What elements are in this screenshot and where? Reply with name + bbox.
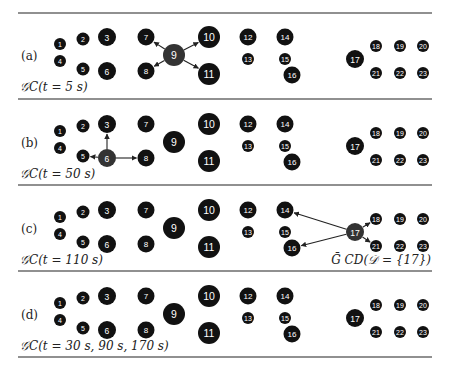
node-4: 4 — [54, 55, 66, 67]
node-label: 17 — [350, 314, 360, 324]
panel-label: (d) — [21, 308, 38, 322]
node-label: 3 — [105, 292, 110, 302]
node-19: 19 — [394, 40, 406, 52]
node-9: 9 — [163, 44, 185, 66]
node-label: 14 — [281, 33, 290, 42]
node-22: 22 — [394, 154, 406, 166]
node-7: 7 — [138, 202, 155, 219]
node-label: 5 — [81, 153, 85, 160]
node-label: 13 — [244, 143, 252, 150]
node-19: 19 — [394, 299, 406, 311]
node-10: 10 — [198, 199, 220, 221]
node-label: 15 — [281, 143, 289, 150]
node-label: 5 — [81, 239, 85, 246]
node-20: 20 — [417, 213, 429, 225]
node-13: 13 — [242, 312, 254, 324]
node-label: 13 — [244, 56, 252, 63]
panel-a: (a)𝒢C(t = 5 s)12345678910111213141516171… — [20, 26, 429, 94]
node-label: 15 — [281, 56, 289, 63]
node-label: 1 — [58, 41, 62, 48]
node-13: 13 — [242, 53, 254, 65]
node-2: 2 — [77, 33, 90, 46]
node-label: 18 — [372, 43, 380, 50]
node-23: 23 — [417, 240, 429, 252]
node-label: 4 — [58, 58, 62, 65]
node-15: 15 — [279, 140, 291, 152]
node-17: 17 — [346, 137, 364, 155]
node-label: 10 — [203, 32, 215, 43]
node-2: 2 — [77, 120, 90, 133]
panel-caption: 𝒢C(t = 110 s) — [20, 253, 103, 267]
node-8: 8 — [138, 150, 155, 167]
node-label: 22 — [396, 70, 404, 77]
node-23: 23 — [417, 67, 429, 79]
node-3: 3 — [98, 115, 116, 133]
node-14: 14 — [277, 202, 294, 219]
node-21: 21 — [370, 67, 382, 79]
node-label: 18 — [372, 302, 380, 309]
node-label: 22 — [396, 157, 404, 164]
node-label: 4 — [58, 317, 62, 324]
node-21: 21 — [370, 240, 382, 252]
node-label: 15 — [281, 229, 289, 236]
node-10: 10 — [198, 285, 220, 307]
node-label: 6 — [105, 326, 110, 336]
edge-arrow — [363, 223, 370, 228]
node-label: 20 — [419, 43, 427, 50]
node-label: 12 — [244, 206, 253, 215]
node-21: 21 — [370, 154, 382, 166]
node-label: 16 — [288, 244, 297, 253]
node-label: 16 — [288, 71, 297, 80]
node-label: 20 — [419, 302, 427, 309]
node-12: 12 — [240, 288, 257, 305]
node-7: 7 — [138, 288, 155, 305]
edge-arrow — [154, 42, 165, 49]
node-label: 2 — [81, 295, 85, 302]
node-5: 5 — [77, 150, 90, 163]
node-label: 22 — [396, 329, 404, 336]
node-2: 2 — [77, 292, 90, 305]
node-label: 14 — [281, 120, 290, 129]
node-18: 18 — [370, 213, 382, 225]
panel-b: (b)𝒢C(t = 50 s)1234567891011121314151617… — [20, 113, 429, 181]
node-22: 22 — [394, 67, 406, 79]
node-7: 7 — [138, 29, 155, 46]
node-label: 12 — [244, 120, 253, 129]
node-label: 14 — [281, 206, 290, 215]
node-label: 3 — [105, 33, 110, 43]
node-label: 11 — [204, 156, 215, 167]
node-16: 16 — [284, 326, 301, 343]
edge-arrow — [294, 213, 346, 229]
node-3: 3 — [98, 287, 116, 305]
node-15: 15 — [279, 53, 291, 65]
node-23: 23 — [417, 326, 429, 338]
node-label: 11 — [204, 242, 215, 253]
node-4: 4 — [54, 228, 66, 240]
node-3: 3 — [98, 28, 116, 46]
node-label: 5 — [81, 66, 85, 73]
node-10: 10 — [198, 113, 220, 135]
node-label: 7 — [144, 120, 149, 129]
node-label: 9 — [171, 50, 177, 61]
node-16: 16 — [284, 67, 301, 84]
node-label: 18 — [372, 216, 380, 223]
node-9: 9 — [163, 131, 185, 153]
node-11: 11 — [198, 150, 220, 172]
node-22: 22 — [394, 326, 406, 338]
node-18: 18 — [370, 299, 382, 311]
node-11: 11 — [198, 322, 220, 344]
node-label: 19 — [396, 302, 404, 309]
node-label: 8 — [144, 67, 149, 76]
node-4: 4 — [54, 142, 66, 154]
node-1: 1 — [54, 211, 66, 223]
node-label: 11 — [204, 328, 215, 339]
node-label: 23 — [419, 243, 427, 250]
node-14: 14 — [277, 288, 294, 305]
node-label: 8 — [144, 326, 149, 335]
node-20: 20 — [417, 299, 429, 311]
node-label: 14 — [281, 292, 290, 301]
node-5: 5 — [77, 63, 90, 76]
node-8: 8 — [138, 236, 155, 253]
edge-arrow — [184, 42, 199, 49]
node-label: 21 — [372, 70, 380, 77]
